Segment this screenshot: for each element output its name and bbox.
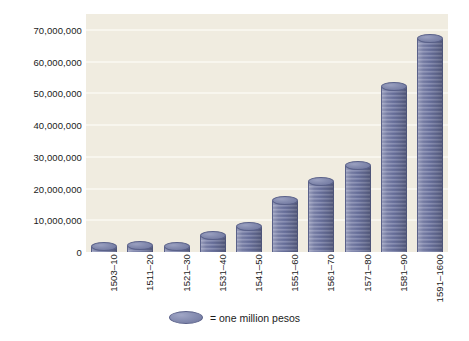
x-tick-label: 1571–80 <box>362 254 373 292</box>
bar-top-coin <box>200 231 226 240</box>
bar-column <box>272 201 298 252</box>
bars-layer <box>86 14 448 252</box>
y-tick-label: 10,000,000 <box>33 215 82 226</box>
x-tick-label: 1503–10 <box>108 254 119 292</box>
legend-label: = one million pesos <box>210 312 300 324</box>
bar <box>272 195 298 252</box>
bar-top-coin <box>127 241 153 250</box>
y-tick-label: 50,000,000 <box>33 88 82 99</box>
y-tick-label: 70,000,000 <box>33 24 82 35</box>
y-axis: 010,000,00020,000,00030,000,00040,000,00… <box>0 14 82 252</box>
x-tick-label: 1521–30 <box>181 254 192 292</box>
chart-figure: 010,000,00020,000,00030,000,00040,000,00… <box>0 0 469 341</box>
y-tick-label: 0 <box>77 247 82 258</box>
x-tick-label: 1541–50 <box>253 254 264 292</box>
bar <box>91 241 117 252</box>
bar <box>308 176 334 252</box>
bar-top-coin <box>381 82 407 91</box>
x-tick-label: 1581–90 <box>398 254 409 292</box>
bar <box>200 230 226 252</box>
bar <box>236 221 262 252</box>
bar <box>381 81 407 252</box>
bar <box>164 241 190 252</box>
plot-area <box>86 14 448 252</box>
bar <box>345 160 371 252</box>
x-tick-label: 1531–40 <box>217 254 228 292</box>
chart-legend: = one million pesos <box>0 311 469 324</box>
y-tick-label: 20,000,000 <box>33 183 82 194</box>
bar <box>417 33 443 252</box>
coin-disc-icon <box>169 311 203 324</box>
x-tick-label: 1511–20 <box>144 254 155 291</box>
x-tick-label: 1591–1600 <box>434 254 445 302</box>
x-axis: 1503–101511–201521–301531–401541–501551–… <box>86 252 448 310</box>
y-tick-label: 40,000,000 <box>33 120 82 131</box>
bar-column <box>308 182 334 252</box>
bar-column <box>345 166 371 252</box>
bar-column <box>417 39 443 252</box>
bar <box>127 240 153 252</box>
bar-top-coin <box>236 222 262 231</box>
y-tick-label: 30,000,000 <box>33 151 82 162</box>
x-tick-label: 1561–70 <box>325 254 336 292</box>
y-tick-label: 60,000,000 <box>33 56 82 67</box>
x-tick-label: 1551–60 <box>289 254 300 292</box>
bar-column <box>381 87 407 252</box>
